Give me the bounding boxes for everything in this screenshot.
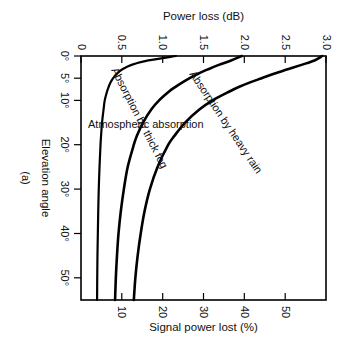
y2-axis-signal-power-lost: 10 20 30 40 50 Signal power lost (%) xyxy=(116,293,291,333)
x-ticklabel-40: 40° xyxy=(59,225,71,242)
x-axis-elevation-angle: 0° 5° 10° 20° 30° 40° 50° Elevation angl… xyxy=(40,51,81,286)
x-ticklabel-20: 20° xyxy=(59,136,71,153)
chart-figure: 0 0.5 1.0 1.5 2.0 2.5 3.0 Power loss (dB… xyxy=(0,0,356,337)
y-axis-power-loss: 0 0.5 1.0 1.5 2.0 2.5 3.0 Power loss (dB… xyxy=(76,10,333,63)
figure-caption: (a) xyxy=(20,171,32,184)
y2-ticklabel-40: 40 xyxy=(239,306,251,318)
y-axis-title: Power loss (dB) xyxy=(163,10,244,22)
y-ticklabel-0: 0 xyxy=(76,44,88,50)
rotated-figure-wrapper: 0 0.5 1.0 1.5 2.0 2.5 3.0 Power loss (dB… xyxy=(0,0,356,337)
curve-label-atmospheric-absorption: Atmospheric absorption xyxy=(88,118,204,130)
x-ticklabel-30: 30° xyxy=(59,181,71,198)
curve-absorption-heavy-rain xyxy=(134,56,322,300)
curve-label-group: Absorption by heavy rain Absorption by t… xyxy=(88,65,265,175)
x-ticklabel-0: 0° xyxy=(59,51,71,62)
x-ticklabel-10: 10° xyxy=(59,92,71,109)
y2-ticklabel-50: 50 xyxy=(280,306,292,318)
y-ticklabel-1-0: 1.0 xyxy=(157,35,169,50)
x-ticklabel-5: 5° xyxy=(59,73,71,84)
x-axis-title: Elevation angle xyxy=(40,139,52,218)
y-ticklabel-3-0: 3.0 xyxy=(321,35,333,50)
y2-ticklabel-10: 10 xyxy=(116,306,128,318)
y-ticklabel-2-5: 2.5 xyxy=(280,35,292,50)
y-ticklabel-1-5: 1.5 xyxy=(198,35,210,50)
y2-ticklabel-30: 30 xyxy=(198,306,210,318)
y-ticklabel-2-0: 2.0 xyxy=(239,35,251,50)
y2-axis-title: Signal power lost (%) xyxy=(149,321,258,333)
chart-canvas: 0 0.5 1.0 1.5 2.0 2.5 3.0 Power loss (dB… xyxy=(0,0,356,337)
y2-ticklabel-20: 20 xyxy=(157,306,169,318)
x-ticklabel-50: 50° xyxy=(59,269,71,286)
y-ticklabel-0-5: 0.5 xyxy=(116,35,128,50)
